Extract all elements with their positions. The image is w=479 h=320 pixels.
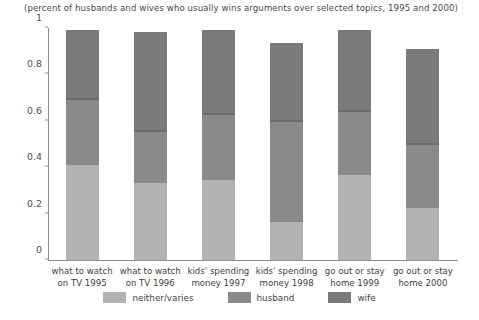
- stacked-bar[interactable]: [134, 28, 167, 260]
- stacked-bar[interactable]: [406, 28, 439, 260]
- x-axis-label: go out or stayhome 1999: [321, 266, 389, 289]
- chart-title: (percent of husbands and wives who usual…: [24, 3, 458, 13]
- legend-swatch-icon: [103, 292, 126, 303]
- bar-segment-neither-varies[interactable]: [406, 208, 439, 260]
- x-axis-label-line: what to watch: [48, 266, 116, 278]
- x-axis-label-line: money 1997: [184, 278, 252, 290]
- y-axis-tick-mark: [45, 73, 48, 74]
- x-axis-label: what to watchon TV 1995: [48, 266, 116, 289]
- x-axis-label: kids' spendingmoney 1997: [184, 266, 252, 289]
- bar-segment-husband[interactable]: [270, 120, 303, 222]
- legend-label: wife: [357, 293, 375, 303]
- x-axis-label-line: on TV 1995: [48, 278, 116, 290]
- bar-segment-wife[interactable]: [270, 41, 303, 120]
- x-axis-label: go out or stayhome 2000: [389, 266, 457, 289]
- bar-segment-wife[interactable]: [406, 47, 439, 143]
- y-axis-tick-mark: [45, 27, 48, 28]
- x-axis-label: what to watchon TV 1996: [116, 266, 184, 289]
- y-axis-tick-label: 1: [36, 12, 48, 23]
- x-axis-label-line: home 1999: [321, 278, 389, 290]
- bar-segment-husband[interactable]: [134, 130, 167, 183]
- stacked-bar-chart: (percent of husbands and wives who usual…: [0, 0, 479, 320]
- legend-label: husband: [257, 293, 295, 303]
- bar-segment-wife[interactable]: [338, 28, 371, 110]
- y-axis-tick-label: 0.4: [27, 151, 48, 162]
- bar-segment-wife[interactable]: [202, 28, 235, 113]
- bar-segment-wife[interactable]: [66, 28, 99, 98]
- x-axis-label-line: home 2000: [389, 278, 457, 290]
- bar-segment-husband[interactable]: [202, 113, 235, 180]
- x-axis-label-line: what to watch: [116, 266, 184, 278]
- y-axis-tick-mark: [45, 259, 48, 260]
- bar-segment-neither-varies[interactable]: [270, 222, 303, 260]
- bar-group[interactable]: [406, 28, 439, 260]
- bar-segment-neither-varies[interactable]: [134, 183, 167, 260]
- y-axis-tick-label: 0.8: [27, 58, 48, 69]
- bar-group[interactable]: [270, 28, 303, 260]
- bar-segment-neither-varies[interactable]: [66, 165, 99, 260]
- bar-segment-wife[interactable]: [134, 30, 167, 130]
- stacked-bar[interactable]: [202, 28, 235, 260]
- plot-area: 00.20.40.60.81: [48, 28, 457, 260]
- x-axis-label-line: go out or stay: [321, 266, 389, 278]
- stacked-bar[interactable]: [270, 28, 303, 260]
- legend-swatch-icon: [328, 292, 351, 303]
- x-axis-label-line: on TV 1996: [116, 278, 184, 290]
- bar-group[interactable]: [202, 28, 235, 260]
- y-axis-tick-label: 0.6: [27, 104, 48, 115]
- bar-segment-husband[interactable]: [66, 98, 99, 165]
- x-axis-line: [48, 260, 458, 261]
- y-axis-tick-mark: [45, 212, 48, 213]
- legend-item[interactable]: neither/varies: [103, 292, 193, 303]
- y-axis-tick-mark: [45, 166, 48, 167]
- bar-segment-husband[interactable]: [338, 110, 371, 175]
- legend-item[interactable]: husband: [228, 292, 295, 303]
- x-axis-label-line: kids' spending: [184, 266, 252, 278]
- bar-segment-neither-varies[interactable]: [202, 180, 235, 260]
- legend-label: neither/varies: [132, 293, 193, 303]
- bar-group[interactable]: [338, 28, 371, 260]
- x-axis-label: kids' spendingmoney 1998: [253, 266, 321, 289]
- bar-group[interactable]: [66, 28, 99, 260]
- bar-segment-husband[interactable]: [406, 143, 439, 208]
- stacked-bar[interactable]: [66, 28, 99, 260]
- y-axis-tick-label: 0.2: [27, 197, 48, 208]
- legend-swatch-icon: [228, 292, 251, 303]
- bar-segment-neither-varies[interactable]: [338, 175, 371, 260]
- chart-legend: neither/varieshusbandwife: [0, 292, 479, 303]
- stacked-bar[interactable]: [338, 28, 371, 260]
- legend-item[interactable]: wife: [328, 292, 375, 303]
- x-axis-label-line: go out or stay: [389, 266, 457, 278]
- y-axis-tick-label: 0: [36, 244, 48, 255]
- bar-group[interactable]: [134, 28, 167, 260]
- x-axis-label-line: kids' spending: [253, 266, 321, 278]
- y-axis-tick-mark: [45, 119, 48, 120]
- x-axis-label-line: money 1998: [253, 278, 321, 290]
